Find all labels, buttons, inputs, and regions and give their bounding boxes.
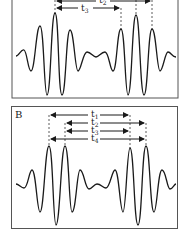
label-a-t3: t3 xyxy=(81,3,89,14)
waveform-diagram: t2 t3 B t1 t2 xyxy=(0,0,189,239)
panel-b-label: B xyxy=(15,109,22,120)
waveform-b xyxy=(16,146,176,225)
panel-b: B t1 t2 t3 t4 xyxy=(12,107,178,229)
panel-a: t2 t3 xyxy=(12,0,178,98)
interval-arrow-a-t3: t3 xyxy=(57,3,119,14)
interval-arrow-b-t2: t2 xyxy=(67,117,144,128)
label-a-t2: t2 xyxy=(99,0,107,6)
panel-a-frame xyxy=(12,0,178,98)
interval-arrow-b-t1: t1 xyxy=(51,109,128,120)
